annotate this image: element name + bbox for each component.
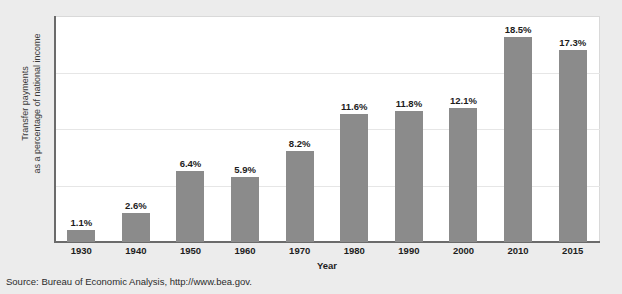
bar-value-label: 2.6% xyxy=(109,200,164,211)
bar-group: 11.6% xyxy=(327,16,382,242)
bar[interactable] xyxy=(449,108,477,242)
x-tick-2015: 2015 xyxy=(545,245,600,256)
bar-series: 1.1%2.6%6.4%5.9%8.2%11.6%11.8%12.1%18.5%… xyxy=(54,16,600,242)
bar-value-label: 17.3% xyxy=(545,37,600,48)
y-axis-title: Transfer payments as a percentage of nat… xyxy=(20,11,43,197)
bar-value-label: 11.6% xyxy=(327,101,382,112)
chart-figure: Transfer payments as a percentage of nat… xyxy=(0,0,622,294)
bar-value-label: 18.5% xyxy=(491,24,546,35)
bar-group: 8.2% xyxy=(272,16,327,242)
bar-group: 1.1% xyxy=(54,16,109,242)
bar-value-label: 12.1% xyxy=(436,95,491,106)
bar-group: 17.3% xyxy=(545,16,600,242)
x-tick-1950: 1950 xyxy=(163,245,218,256)
bar[interactable] xyxy=(67,230,95,242)
bar[interactable] xyxy=(176,171,204,242)
bar-value-label: 6.4% xyxy=(163,158,218,169)
bar[interactable] xyxy=(122,213,150,242)
bar-value-label: 5.9% xyxy=(218,164,273,175)
bar-group: 18.5% xyxy=(491,16,546,242)
bar-value-label: 1.1% xyxy=(54,217,109,228)
x-tick-1990: 1990 xyxy=(382,245,437,256)
x-tick-1960: 1960 xyxy=(218,245,273,256)
bar-value-label: 8.2% xyxy=(272,138,327,149)
bar-group: 5.9% xyxy=(218,16,273,242)
bar[interactable] xyxy=(504,37,532,242)
bar[interactable] xyxy=(559,50,587,242)
bar-group: 12.1% xyxy=(436,16,491,242)
x-tick-1970: 1970 xyxy=(272,245,327,256)
x-tick-1980: 1980 xyxy=(327,245,382,256)
x-axis-title: Year xyxy=(54,260,600,271)
chart-title-remnant xyxy=(150,0,480,5)
bar-group: 11.8% xyxy=(382,16,437,242)
x-tick-2010: 2010 xyxy=(491,245,546,256)
bar[interactable] xyxy=(286,151,314,242)
y-axis-title-line2: as a percentage of national income xyxy=(31,11,43,197)
bar-group: 2.6% xyxy=(109,16,164,242)
bar-group: 6.4% xyxy=(163,16,218,242)
y-axis-title-line1: Transfer payments xyxy=(20,11,32,197)
x-tick-2000: 2000 xyxy=(436,245,491,256)
x-tick-1930: 1930 xyxy=(54,245,109,256)
bar[interactable] xyxy=(231,177,259,242)
bar[interactable] xyxy=(340,114,368,243)
x-tick-1940: 1940 xyxy=(109,245,164,256)
x-axis-tick-labels: 1930194019501960197019801990200020102015 xyxy=(54,245,600,259)
bar[interactable] xyxy=(395,111,423,242)
bar-value-label: 11.8% xyxy=(382,98,437,109)
source-note: Source: Bureau of Economic Analysis, htt… xyxy=(6,276,252,287)
